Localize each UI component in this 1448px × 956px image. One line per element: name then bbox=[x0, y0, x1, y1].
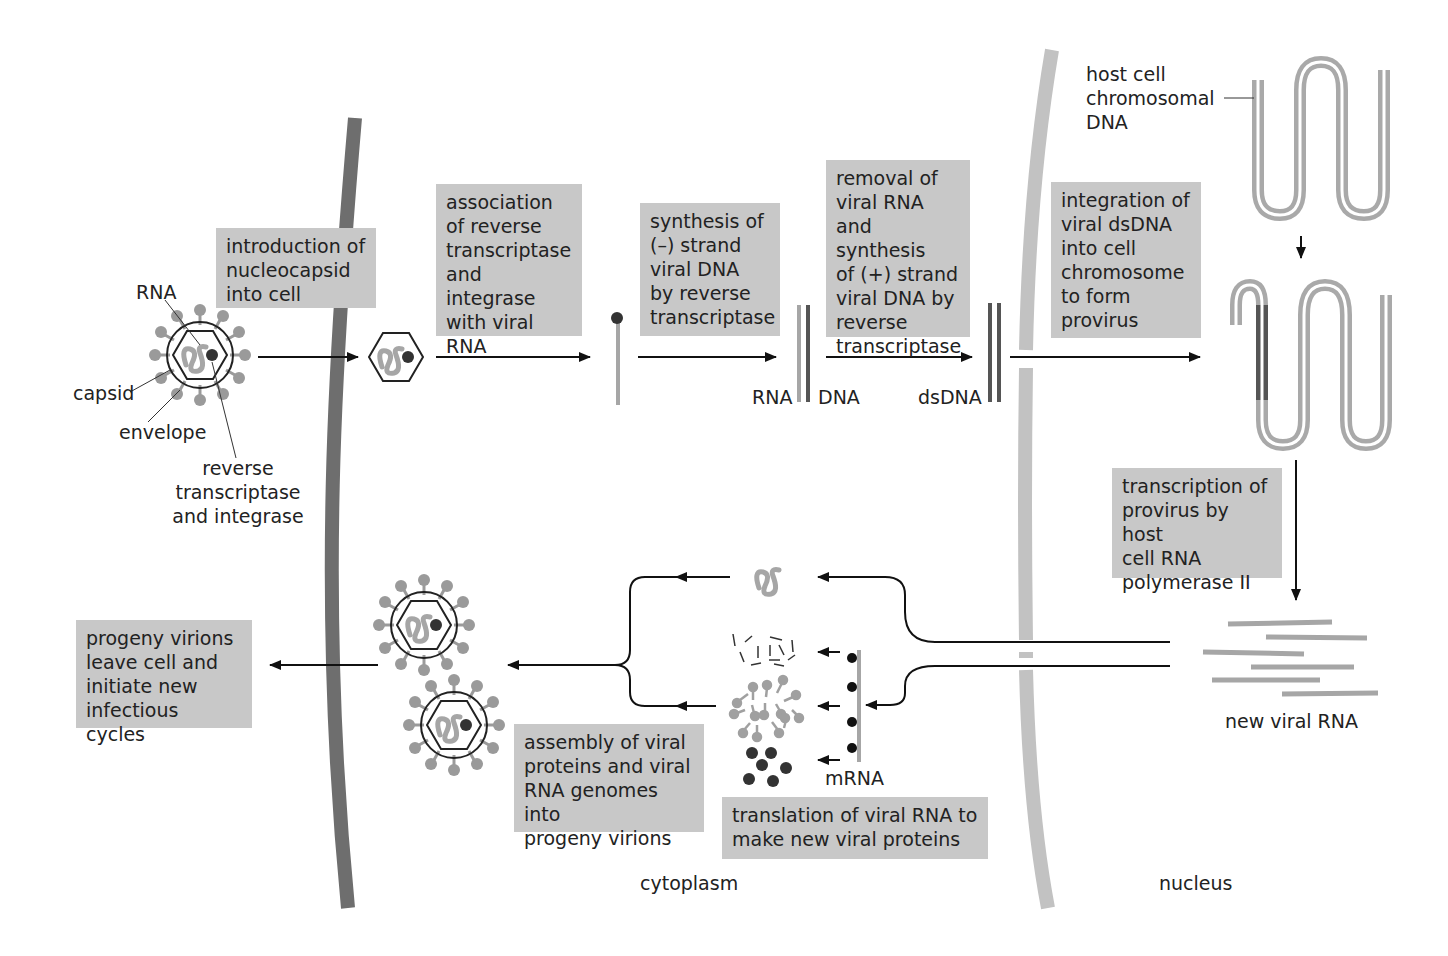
viral-proteins-icon bbox=[743, 747, 792, 787]
label-cytoplasm: cytoplasm bbox=[640, 871, 738, 895]
label-rna: RNA bbox=[136, 280, 176, 304]
label-host-chromosomal-dna: host cell chromosomal DNA bbox=[1086, 62, 1215, 134]
step-assembly: assembly of viral proteins and viral RNA… bbox=[514, 724, 704, 832]
step-integration: integration of viral dsDNA into cell chr… bbox=[1051, 182, 1201, 338]
label-mrna: mRNA bbox=[825, 766, 884, 790]
label-nucleus: nucleus bbox=[1159, 871, 1232, 895]
label-rna-strand: RNA bbox=[752, 385, 792, 409]
step-association: association of reverse transcriptase and… bbox=[436, 184, 582, 336]
label-capsid: capsid bbox=[73, 381, 134, 405]
new-viral-rna-icon bbox=[1203, 622, 1378, 694]
label-reverse-transcriptase: reverse transcriptase and integrase bbox=[170, 456, 306, 528]
step-introduction: introduction of nucleocapsid into cell bbox=[216, 228, 376, 308]
capsid-proteins-icon bbox=[733, 634, 795, 666]
progeny-virion-icon bbox=[403, 674, 505, 776]
label-dna-strand: DNA bbox=[818, 385, 860, 409]
step-removal-and-plus-synthesis: removal of viral RNA and synthesis of (+… bbox=[826, 160, 970, 337]
step-progeny-release: progeny virions leave cell and initiate … bbox=[76, 620, 252, 728]
nuclear-membrane bbox=[1025, 50, 1052, 908]
host-chromosome-icon bbox=[1258, 62, 1384, 215]
progeny-virion-icon bbox=[373, 574, 475, 676]
nucleocapsid-icon bbox=[369, 333, 423, 381]
step-translation: translation of viral RNA to make new vir… bbox=[722, 797, 988, 859]
virion-icon bbox=[149, 304, 251, 406]
label-dsdna: dsDNA bbox=[918, 385, 982, 409]
label-new-viral-rna: new viral RNA bbox=[1225, 709, 1358, 733]
label-envelope: envelope bbox=[119, 420, 206, 444]
envelope-proteins-icon bbox=[730, 676, 803, 741]
step-synthesis-minus-strand: synthesis of (–) strand viral DNA by rev… bbox=[640, 203, 780, 336]
step-transcription: transcription of provirus by host cell R… bbox=[1112, 468, 1282, 578]
